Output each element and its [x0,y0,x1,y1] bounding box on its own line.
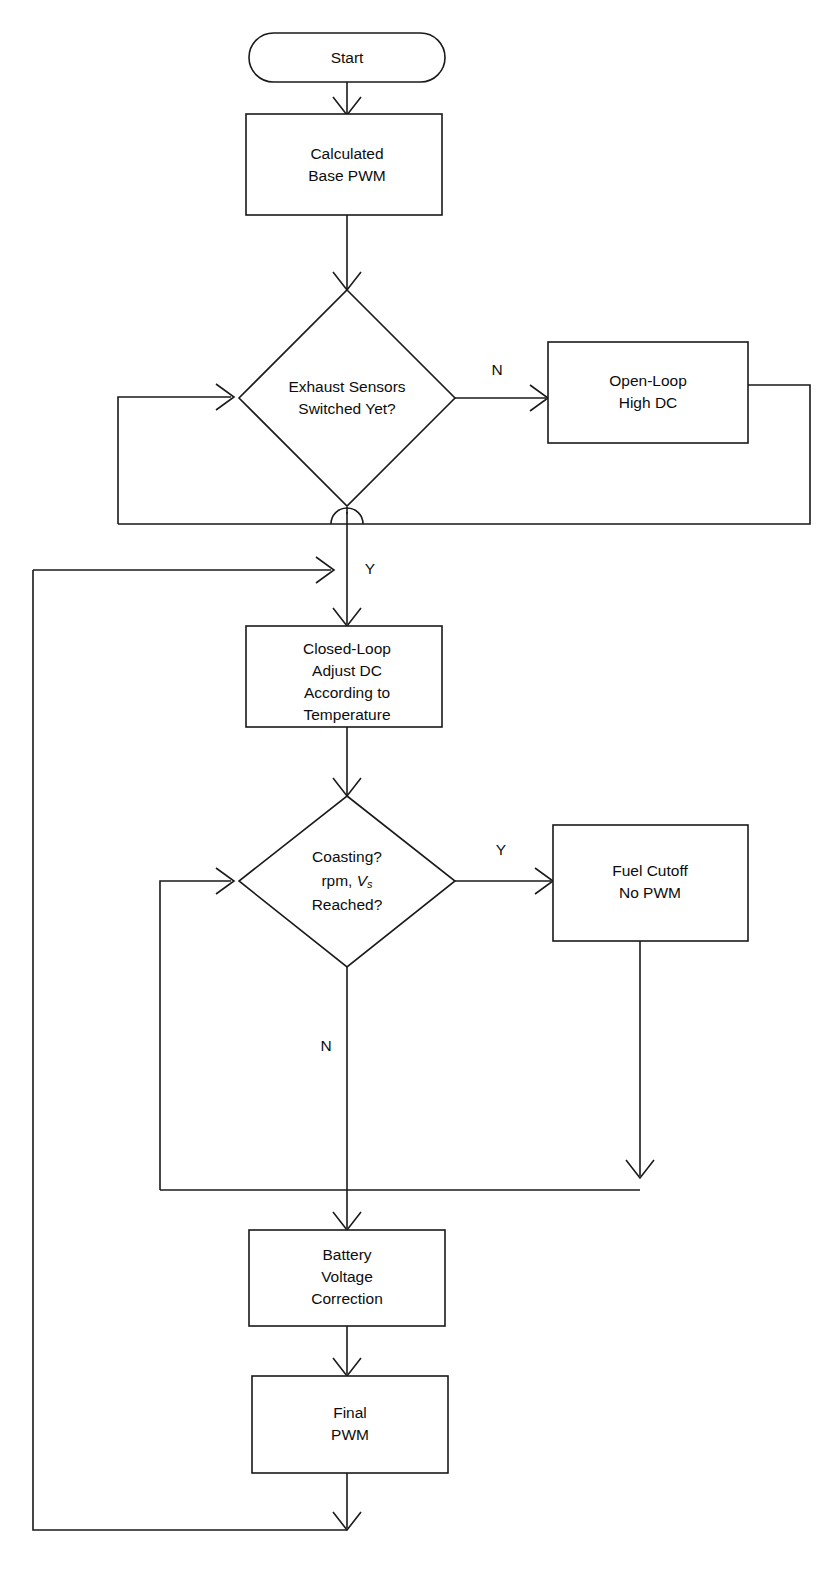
coasting-line2-prefix: rpm, [321,872,356,889]
battery-correction-line1: Battery [322,1246,371,1263]
flowchart-canvas: Start Calculated Base PWM Exhaust Sensor… [0,0,833,1572]
final-pwm-line2: PWM [331,1426,369,1443]
node-closed-loop: Closed-Loop Adjust DC According to Tempe… [246,626,442,727]
closed-loop-line4: Temperature [303,706,390,723]
fuel-cutoff-line1: Fuel Cutoff [612,862,688,879]
node-start: Start [249,33,445,82]
fuel-cutoff-line2: No PWM [619,884,681,901]
connector-fuel-cutoff-to-join [626,941,654,1178]
battery-correction-line3: Correction [311,1290,383,1307]
coasting-decision-line1: Coasting? [312,848,382,865]
connector-outer-loop-inlet [33,557,334,583]
node-final-pwm: Final PWM [252,1376,448,1473]
node-exhaust-decision: Exhaust Sensors Switched Yet? [239,290,455,506]
connector-start-to-base-pwm [333,82,361,115]
base-pwm-line2: Base PWM [308,167,386,184]
battery-correction-line2: Voltage [321,1268,373,1285]
base-pwm-line1: Calculated [310,145,383,162]
node-base-pwm: Calculated Base PWM [246,114,442,215]
node-coasting-decision: Coasting? rpm, Vs Reached? [239,796,455,967]
closed-loop-line1: Closed-Loop [303,640,391,657]
branch-label-coasting-yes: Y [496,841,506,858]
closed-loop-line3: According to [304,684,390,701]
node-open-loop: Open-Loop High DC [548,342,748,443]
open-loop-line1: Open-Loop [609,372,687,389]
node-fuel-cutoff: Fuel Cutoff No PWM [553,825,748,941]
connector-base-pwm-to-exhaust-decision [333,215,361,290]
branch-label-exhaust-no: N [491,361,502,378]
branch-label-coasting-no: N [320,1037,331,1054]
open-loop-line2: High DC [619,394,678,411]
node-battery-correction: Battery Voltage Correction [249,1230,445,1326]
closed-loop-line2: Adjust DC [312,662,382,679]
coasting-decision-line2: rpm, Vs [321,872,373,890]
exhaust-decision-line2: Switched Yet? [298,400,396,417]
connector-coasting-yes-to-fuel-cutoff [455,868,553,894]
connector-closed-loop-to-coasting [333,727,361,796]
start-label: Start [331,49,364,66]
coasting-decision-line3: Reached? [312,896,383,913]
connector-coasting-no-to-battery [160,967,640,1230]
final-pwm-line1: Final [333,1404,367,1421]
connector-battery-to-final-pwm [333,1326,361,1376]
connector-exhaust-loop-return [118,384,234,524]
coasting-line2-sub: s [367,878,373,890]
exhaust-decision-line1: Exhaust Sensors [288,378,405,395]
connector-exhaust-yes-to-closed-loop [331,507,363,626]
branch-label-exhaust-yes: Y [365,560,375,577]
connector-exhaust-no-to-open-loop [455,385,548,411]
flowchart-svg: Start Calculated Base PWM Exhaust Sensor… [0,0,833,1572]
connector-coasting-loop-return [160,868,234,1190]
